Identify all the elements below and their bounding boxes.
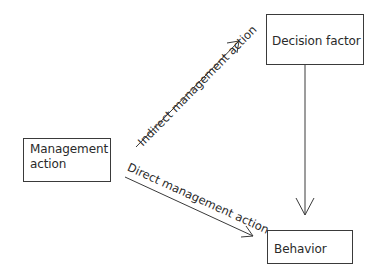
node-management-action-line2: action bbox=[30, 157, 110, 172]
node-behavior-label: Behavior bbox=[274, 242, 352, 257]
node-management-action: Management action bbox=[23, 138, 111, 182]
node-decision-factor-label: Decision factor bbox=[272, 34, 363, 49]
decision-to-behavior-arrow bbox=[296, 65, 314, 215]
node-behavior: Behavior bbox=[267, 230, 353, 264]
node-management-action-line1: Management bbox=[30, 142, 110, 157]
node-decision-factor: Decision factor bbox=[266, 14, 364, 65]
